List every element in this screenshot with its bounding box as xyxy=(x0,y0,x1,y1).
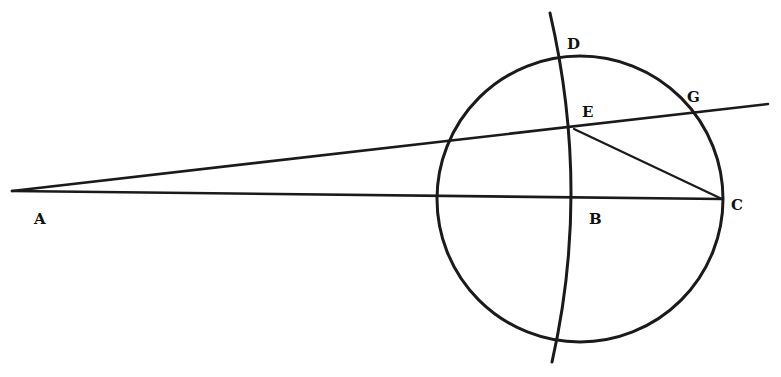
diagram-canvas: A B C D E G xyxy=(0,0,781,377)
label-E: E xyxy=(582,103,593,121)
arc-DEB xyxy=(550,13,571,362)
line-AC xyxy=(12,191,722,199)
label-G: G xyxy=(687,88,700,106)
line-EC xyxy=(574,129,722,199)
label-D: D xyxy=(567,35,580,53)
label-C: C xyxy=(731,196,743,214)
line-AEG xyxy=(12,104,768,191)
geometry-figure: A B C D E G xyxy=(0,0,781,377)
label-B: B xyxy=(589,210,602,228)
label-A: A xyxy=(33,210,46,228)
